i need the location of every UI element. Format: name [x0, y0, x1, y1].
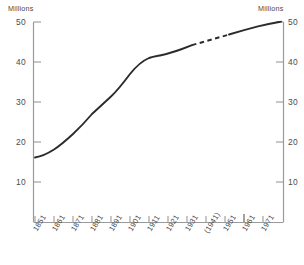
population-curve-dashed [192, 35, 229, 46]
y-tick-left-40: 40 [6, 57, 26, 67]
y-tick-right-50: 50 [288, 17, 304, 27]
right-y-ticks [276, 22, 284, 182]
y-tick-right-10: 10 [288, 177, 304, 187]
y-tick-right-20: 20 [288, 137, 304, 147]
y-tick-left-30: 30 [6, 97, 26, 107]
y-tick-right-30: 30 [288, 97, 304, 107]
population-curve-solid [35, 45, 192, 157]
y-tick-left-20: 20 [6, 137, 26, 147]
population-curve-solid-tail [229, 22, 281, 35]
y-tick-right-40: 40 [288, 57, 304, 67]
y-tick-left-50: 50 [6, 17, 26, 27]
population-line-chart: Millions Millions [0, 0, 304, 265]
y-tick-left-10: 10 [6, 177, 26, 187]
